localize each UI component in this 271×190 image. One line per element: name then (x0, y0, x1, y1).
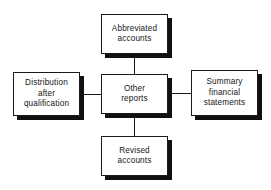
node-label: Summary financial statements (201, 77, 249, 109)
node-face: Distribution after qualification (13, 72, 80, 116)
node-label: Distribution after qualification (21, 78, 72, 110)
node-revised-accounts[interactable]: Revised accounts (101, 136, 168, 176)
node-face: Abbreviated accounts (101, 14, 168, 54)
node-label: Other reports (118, 84, 151, 105)
node-face: Summary financial statements (191, 70, 258, 116)
node-other-reports[interactable]: Other reports (101, 74, 168, 114)
node-abbreviated-accounts[interactable]: Abbreviated accounts (101, 14, 168, 54)
connector-center-to-left (84, 94, 102, 95)
node-distribution-after-qualification[interactable]: Distribution after qualification (13, 72, 80, 116)
node-label: Abbreviated accounts (109, 24, 160, 45)
node-summary-financial-statements[interactable]: Summary financial statements (191, 70, 258, 116)
node-label: Revised accounts (115, 146, 155, 167)
diagram-canvas: Abbreviated accounts Distribution after … (0, 0, 271, 190)
node-face: Other reports (101, 74, 168, 114)
node-face: Revised accounts (101, 136, 168, 176)
